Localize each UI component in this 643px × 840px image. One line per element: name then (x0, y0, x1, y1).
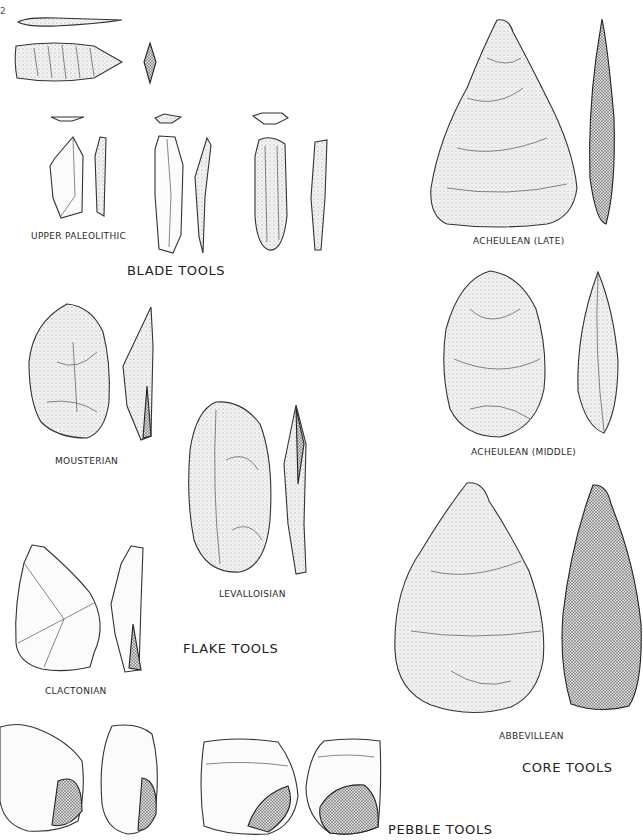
label-clactonian: CLACTONIAN (45, 686, 107, 696)
blade-section-icon (252, 112, 290, 126)
flake-side-icon (109, 544, 145, 674)
flake-side-icon (121, 306, 155, 442)
blade-section-icon (50, 115, 86, 123)
label-mousterian: MOUSTERIAN (55, 456, 118, 466)
group-title-core-tools: CORE TOOLS (522, 760, 613, 775)
blade-tool-1-face (49, 136, 87, 220)
stone-blade-face-icon (14, 40, 124, 85)
label-acheulean-late: ACHEULEAN (LATE) (473, 236, 564, 246)
pebble-tool-icon (0, 721, 88, 833)
label-upper-paleolithic: UPPER PALEOLITHIC (31, 231, 126, 241)
pebble-tool-icon (98, 724, 160, 836)
blade-tool-3-face (253, 136, 289, 254)
blade-tool-3-side (309, 138, 329, 254)
label-acheulean-middle: ACHEULEAN (MIDDLE) (471, 447, 576, 457)
label-levalloisian: LEVALLOISIAN (219, 589, 286, 599)
handaxe-side-icon (559, 484, 643, 714)
pebble-tool-icon (198, 736, 300, 836)
stone-blade-side-icon (16, 14, 126, 30)
flake-icon (27, 302, 113, 440)
blade-tool-2-side (193, 137, 213, 255)
label-abbevillean: ABBEVILLEAN (499, 731, 564, 741)
handaxe-icon (391, 481, 547, 719)
stone-blade-edge-icon (142, 42, 158, 84)
flake-side-icon (282, 404, 310, 576)
page-number: 2 (0, 6, 6, 16)
blade-tool-1-side (94, 136, 108, 218)
flake-icon (186, 400, 274, 576)
pebble-tool-icon (304, 737, 382, 837)
handaxe-side-icon (574, 271, 620, 435)
flake-icon (14, 543, 98, 673)
group-title-flake-tools: FLAKE TOOLS (183, 641, 278, 656)
group-title-blade-tools: BLADE TOOLS (127, 263, 225, 278)
handaxe-icon (427, 18, 581, 230)
blade-section-icon (154, 113, 182, 125)
handaxe-icon (440, 269, 550, 439)
group-title-pebble-tools: PEBBLE TOOLS (388, 822, 493, 837)
blade-tool-2-face (153, 135, 185, 255)
handaxe-side-icon (586, 18, 618, 226)
